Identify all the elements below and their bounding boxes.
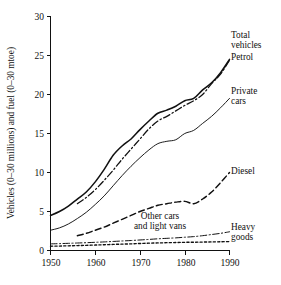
label-petrol: Petrol <box>231 52 254 62</box>
label-total-vehicles-line1: Total <box>231 30 250 40</box>
y-tick-label-15: 15 <box>35 129 45 139</box>
y-tick-label-30: 30 <box>35 12 45 22</box>
y-tick-label-10: 10 <box>35 168 45 178</box>
y-tick-label-5: 5 <box>39 207 44 217</box>
label-diesel: Diesel <box>231 166 255 176</box>
series-line-petrol <box>77 60 229 204</box>
x-tick-label-1950: 1950 <box>42 258 61 268</box>
label-other-cars-line1: Other cars <box>141 211 180 221</box>
y-tick-label-20: 20 <box>35 90 45 100</box>
x-axis-ticks: 1950 1960 1970 1980 1990 <box>42 251 240 269</box>
label-heavy-goods-line2: goods <box>231 232 254 242</box>
y-tick-label-0: 0 <box>39 246 44 256</box>
x-tick-label-1980: 1980 <box>177 258 196 268</box>
label-private-cars-line2: cars <box>231 96 246 106</box>
label-private-cars-line1: Private <box>231 86 257 96</box>
label-total-vehicles-line2: vehicles <box>231 40 262 50</box>
chart-figure: 30 25 20 15 10 5 0 1950 1960 1970 1980 1… <box>0 0 281 285</box>
line-chart-svg: 30 25 20 15 10 5 0 1950 1960 1970 1980 1… <box>0 0 281 285</box>
x-tick-label-1970: 1970 <box>132 258 151 268</box>
y-tick-label-25: 25 <box>35 51 45 61</box>
y-axis-title: Vehicles (0–30 millions) and fuel (0–30 … <box>6 47 17 219</box>
x-tick-label-1990: 1990 <box>221 258 240 268</box>
label-heavy-goods-line1: Heavy <box>231 222 256 232</box>
label-other-cars-line2: and light vans <box>134 221 187 231</box>
series-line-heavy-goods <box>51 242 230 247</box>
series-annotations: Total vehicles Petrol Private cars Diese… <box>134 30 262 242</box>
y-axis-ticks: 30 25 20 15 10 5 0 <box>35 12 51 256</box>
x-tick-label-1960: 1960 <box>87 258 106 268</box>
series-line-total-vehicles <box>51 59 230 215</box>
